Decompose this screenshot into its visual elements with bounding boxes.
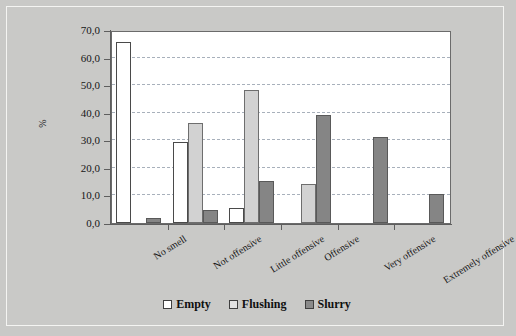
y-tick-label-wrap: 30,0 [52, 135, 100, 146]
y-axis-title: % [37, 119, 48, 127]
x-tick-mark [394, 225, 395, 230]
gridline [112, 194, 450, 195]
gridline [112, 57, 450, 58]
legend-item-empty[interactable]: Empty [163, 298, 211, 310]
bar-flushing-2 [244, 90, 259, 223]
y-tick-label: 70,0 [56, 25, 100, 36]
gridline [112, 84, 450, 85]
y-tick-label: 20,0 [56, 163, 100, 174]
y-tick-label: 0,0 [56, 218, 100, 229]
bar-slurry-4 [373, 137, 388, 223]
y-tick-label: 40,0 [56, 108, 100, 119]
x-tick-mark [168, 225, 169, 230]
y-tick-label: 60,0 [56, 53, 100, 64]
bar-slurry-5 [429, 194, 444, 223]
y-tick-label: 50,0 [56, 80, 100, 91]
bar-flushing-1 [188, 123, 203, 223]
y-tick-label-wrap: 60,0 [52, 53, 100, 64]
y-tick-label-wrap: 10,0 [52, 190, 100, 201]
legend-label: Empty [176, 298, 211, 310]
bar-empty-2 [229, 208, 244, 223]
bar-empty-0 [116, 42, 131, 223]
chart-legend: EmptyFlushingSlurry [0, 298, 514, 310]
y-tick-label-wrap: 50,0 [52, 80, 100, 91]
legend-item-flushing[interactable]: Flushing [229, 298, 287, 310]
bar-empty-1 [173, 142, 188, 223]
legend-swatch-flushing-icon [229, 300, 238, 309]
y-tick-label: 10,0 [56, 190, 100, 201]
gridline [112, 139, 450, 140]
bar-slurry-2 [259, 181, 274, 223]
legend-swatch-slurry-icon [305, 300, 314, 309]
bar-flushing-3 [301, 184, 316, 223]
legend-swatch-empty-icon [163, 300, 172, 309]
bar-slurry-0 [146, 218, 161, 223]
x-tick-mark [281, 225, 282, 230]
y-tick-label: 30,0 [56, 135, 100, 146]
y-tick-label-wrap: 40,0 [52, 108, 100, 119]
x-tick-mark [338, 225, 339, 230]
x-tick-mark [224, 225, 225, 230]
y-tick-label-wrap: 0,0 [52, 218, 100, 229]
bar-slurry-1 [203, 210, 218, 223]
gridline [112, 112, 450, 113]
bar-slurry-3 [316, 115, 331, 223]
plot-area [111, 31, 451, 224]
y-tick-label-wrap: 70,0 [52, 25, 100, 36]
gridline [112, 167, 450, 168]
legend-item-slurry[interactable]: Slurry [305, 298, 351, 310]
legend-label: Flushing [242, 298, 287, 310]
legend-label: Slurry [318, 298, 351, 310]
y-tick-label-wrap: 20,0 [52, 163, 100, 174]
